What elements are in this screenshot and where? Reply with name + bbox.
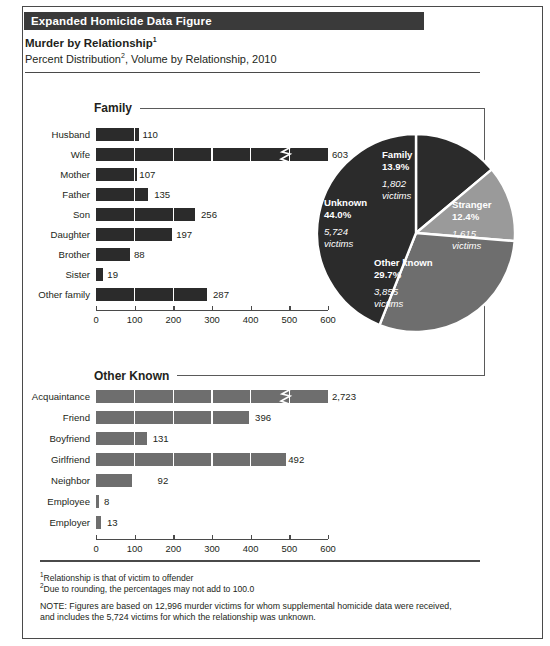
x-axis-tick	[135, 535, 136, 539]
bar-row-label: Son	[73, 208, 90, 221]
pie-slice-victim-word: victims	[374, 298, 433, 310]
bar-row: Sister19	[96, 268, 328, 281]
figure-note-line-1: NOTE: Figures are based on 12,996 murder…	[40, 601, 452, 612]
pie-slice-name: Family	[382, 149, 412, 161]
bar-value-label: 19	[107, 268, 118, 281]
bar-segment-lines	[96, 128, 139, 141]
bar-row-label: Wife	[71, 148, 90, 161]
bar-segment-lines	[96, 411, 249, 424]
x-axis-tick-label: 400	[231, 314, 271, 325]
x-axis-tick	[251, 306, 252, 310]
bar-value-label: 135	[154, 188, 170, 201]
x-axis-tick	[251, 535, 252, 539]
bar	[96, 453, 286, 466]
pie-slice-label-stranger: Stranger12.4%1,615victims	[452, 199, 491, 251]
pie-slice-percent: 29.7%	[374, 269, 433, 281]
page-title-footnote-marker: 1	[153, 36, 157, 43]
bar	[96, 188, 148, 201]
bar-segment-lines	[96, 208, 195, 221]
bar	[96, 474, 132, 487]
page-subtitle-part-b: , Volume by Relationship, 2010	[125, 53, 277, 65]
x-axis-line	[96, 310, 328, 311]
bar-segment-lines	[96, 248, 130, 261]
pie-slice-percent: 12.4%	[452, 211, 491, 223]
x-axis-tick-label: 300	[192, 314, 232, 325]
bar-row-label: Sister	[65, 268, 90, 281]
bar-row-label: Daughter	[51, 228, 90, 241]
x-axis-tick-label: 500	[269, 543, 309, 554]
bar-row-label: Mother	[60, 168, 90, 181]
bar	[96, 288, 207, 301]
bar-value-label: 8	[104, 495, 109, 508]
x-axis-tick-label: 200	[153, 543, 193, 554]
bar-value-label: 287	[213, 288, 229, 301]
bar-segment-lines	[96, 432, 147, 445]
bar-value-label: 2,723	[332, 390, 356, 403]
pie-slice-percent: 13.9%	[382, 161, 412, 173]
bar-row-label: Friend	[63, 411, 90, 424]
figure-note: NOTE: Figures are based on 12,996 murder…	[40, 601, 452, 623]
figure-note-line-2: and includes the 5,724 victims for which…	[40, 612, 452, 623]
axis-break-zigzag-icon	[279, 148, 295, 161]
bar-row: Acquaintance2,723	[96, 390, 328, 403]
bar-row: Employer13	[96, 516, 328, 529]
bar-row-label: Acquaintance	[32, 390, 90, 403]
bar	[96, 432, 147, 445]
pie-slice-percent: 44.0%	[324, 209, 367, 221]
page-subtitle-part-a: Percent Distribution	[25, 53, 121, 65]
source-citation-spine: Source: U.S. Department of Justice, Fede…	[0, 0, 22, 646]
bar-row: Daughter197	[96, 228, 328, 241]
bar-value-label: 131	[153, 432, 169, 445]
bar-segment-lines	[96, 268, 103, 281]
x-axis-tick	[135, 306, 136, 310]
bar-value-label: 92	[158, 474, 169, 487]
relationship-pie-chart: Family13.9%1,802victimsStranger12.4%1,61…	[316, 133, 516, 333]
x-axis-tick	[212, 535, 213, 539]
section-caption-family: Family	[90, 101, 140, 115]
bar-value-label: 88	[134, 248, 145, 261]
bar-row: Husband110	[96, 128, 328, 141]
bar-row: Neighbor92	[96, 474, 328, 487]
bar	[96, 248, 130, 261]
x-axis-tick	[289, 535, 290, 539]
section-caption-other-known: Other Known	[90, 369, 177, 383]
pie-slice-victim-count: 5,724	[324, 226, 367, 238]
bar	[96, 228, 172, 241]
x-axis-tick-label: 600	[308, 543, 348, 554]
x-axis-tick-label: 200	[153, 314, 193, 325]
bar-row-label: Neighbor	[51, 474, 90, 487]
bar-value-label: 107	[139, 168, 155, 181]
pie-slice-name: Unknown	[324, 197, 367, 209]
pie-slice-label-family: Family13.9%1,802victims	[382, 149, 412, 201]
pie-slice-victim-count: 1,802	[382, 178, 412, 190]
footnote-divider	[40, 560, 480, 562]
bar-row-label: Brother	[59, 248, 90, 261]
bar-row: Father135	[96, 188, 328, 201]
bar-row: Employee8	[96, 495, 328, 508]
bar-segment-lines	[96, 495, 99, 508]
x-axis-tick-label: 300	[192, 543, 232, 554]
bar-row: Son256	[96, 208, 328, 221]
figure-header-title: Expanded Homicide Data Figure	[31, 15, 212, 27]
bar-segment-lines	[96, 188, 148, 201]
x-axis-tick	[328, 535, 329, 539]
bar	[96, 268, 103, 281]
pie-slice-name: Stranger	[452, 199, 491, 211]
x-axis-tick-label: 0	[76, 314, 116, 325]
pie-slice-name: Other known	[374, 257, 433, 269]
x-axis-tick	[96, 306, 97, 310]
bar-row: Other family287	[96, 288, 328, 301]
bar	[96, 128, 139, 141]
bar	[96, 516, 101, 529]
page-title: Murder by Relationship1	[25, 36, 157, 49]
bar-row-label: Girlfriend	[51, 453, 90, 466]
x-axis-tick	[96, 535, 97, 539]
bar-value-label: 256	[201, 208, 217, 221]
bar-segment-lines	[96, 516, 101, 529]
pie-slice-victim-count: 1,615	[452, 228, 491, 240]
page-title-text: Murder by Relationship	[25, 37, 153, 49]
header-divider	[25, 72, 480, 73]
bar-segment-lines	[96, 474, 132, 487]
bar	[96, 411, 249, 424]
bar-segment-lines	[96, 168, 137, 181]
